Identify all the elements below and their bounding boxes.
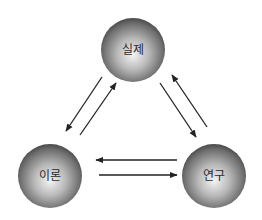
node-label-research: 연구 xyxy=(203,169,225,183)
arrow-research-to-reality xyxy=(172,75,207,127)
arrow-theory-to-reality xyxy=(80,83,116,135)
node-reality: 실제 xyxy=(101,18,165,82)
node-research: 연구 xyxy=(182,144,246,208)
arrow-reality-to-research xyxy=(160,83,196,137)
node-label-theory: 이론 xyxy=(39,169,61,183)
cycle-diagram: 실제 이론 연구 xyxy=(0,0,262,220)
node-label-reality: 실제 xyxy=(122,43,144,57)
arrow-reality-to-theory xyxy=(66,77,102,131)
node-theory: 이론 xyxy=(18,144,82,208)
